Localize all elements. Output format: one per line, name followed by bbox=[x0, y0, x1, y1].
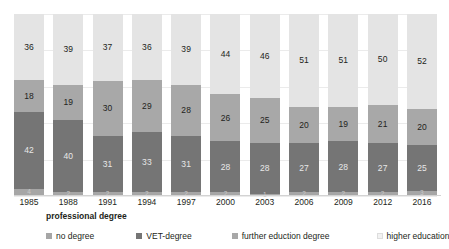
bar-segment-value: 19 bbox=[339, 120, 349, 129]
bar-column[interactable]: 4625281 bbox=[250, 14, 280, 196]
x-axis-tick-label: 1994 bbox=[132, 197, 162, 213]
bar-segment[interactable]: 25 bbox=[250, 98, 280, 144]
x-axis-tick-label: 2006 bbox=[289, 197, 319, 213]
bar-segment[interactable]: 31 bbox=[93, 136, 123, 192]
bar-column[interactable]: 3928312 bbox=[171, 14, 201, 196]
bar-column[interactable]: 3618424 bbox=[14, 14, 44, 196]
bar-column[interactable]: 5021272 bbox=[368, 14, 398, 196]
legend-label: no degree bbox=[56, 231, 94, 241]
bar-segment[interactable]: 25 bbox=[407, 145, 437, 191]
plot-area: 3618424391940237303123629332392831244262… bbox=[14, 14, 437, 196]
bar-segment[interactable]: 19 bbox=[53, 85, 83, 120]
bar-segment-value: 20 bbox=[299, 121, 309, 130]
x-axis-line bbox=[14, 195, 441, 196]
bar-segment[interactable]: 28 bbox=[210, 141, 240, 192]
x-axis-title: professional degree bbox=[46, 211, 127, 221]
bar-column[interactable]: 3919402 bbox=[53, 14, 83, 196]
chart-legend: no degreeVET-degreefurther eduction degr… bbox=[14, 229, 437, 243]
bar-segment[interactable]: 52 bbox=[407, 14, 437, 109]
bar-segment-value: 21 bbox=[378, 120, 388, 129]
bar-segment-value: 37 bbox=[103, 43, 113, 52]
legend-item[interactable]: no degree bbox=[46, 231, 94, 241]
bar-segment[interactable]: 18 bbox=[14, 80, 44, 113]
bar-segment[interactable]: 39 bbox=[171, 14, 201, 85]
x-axis-tick-label: 1997 bbox=[171, 197, 201, 213]
bar-segment[interactable]: 51 bbox=[289, 14, 319, 107]
bar-segment[interactable]: 20 bbox=[407, 109, 437, 145]
x-axis-tick-label: 2000 bbox=[210, 197, 240, 213]
legend-item[interactable]: VET-degree bbox=[136, 231, 191, 241]
bar-segment[interactable]: 21 bbox=[368, 105, 398, 143]
legend-item[interactable]: further eduction degree bbox=[232, 231, 330, 241]
x-axis-tick-label: 2009 bbox=[328, 197, 358, 213]
bar-segment-value: 28 bbox=[260, 164, 270, 173]
bar-segment[interactable]: 36 bbox=[132, 14, 162, 80]
legend-swatch-icon bbox=[46, 233, 52, 239]
legend-label: higher education bbox=[387, 231, 449, 241]
x-axis-tick-label: 2012 bbox=[368, 197, 398, 213]
bar-segment[interactable]: 39 bbox=[53, 14, 83, 85]
bar-segment-value: 36 bbox=[142, 43, 152, 52]
bar-segment-value: 28 bbox=[221, 163, 231, 172]
bar-segment-value: 29 bbox=[142, 102, 152, 111]
bar-segment-value: 46 bbox=[260, 52, 270, 61]
bar-segment-value: 39 bbox=[63, 45, 73, 54]
bar-segment[interactable]: 42 bbox=[14, 112, 44, 188]
x-axis-tick-label: 2003 bbox=[250, 197, 280, 213]
bar-segment-value: 27 bbox=[299, 164, 309, 173]
legend-label: VET-degree bbox=[146, 231, 191, 241]
bar-column[interactable]: 5220253 bbox=[407, 14, 437, 196]
bar-segment-value: 19 bbox=[63, 98, 73, 107]
legend-swatch-icon bbox=[232, 233, 238, 239]
bar-segment[interactable]: 44 bbox=[210, 14, 240, 94]
bar-segment[interactable]: 30 bbox=[93, 81, 123, 136]
bar-segment[interactable]: 40 bbox=[53, 120, 83, 193]
bar-segment[interactable]: 20 bbox=[289, 107, 319, 143]
bar-segment-value: 39 bbox=[181, 45, 191, 54]
bar-segment[interactable]: 27 bbox=[289, 143, 319, 192]
bar-segment[interactable]: 29 bbox=[132, 80, 162, 133]
bar-segment-value: 25 bbox=[417, 164, 427, 173]
bar-segment[interactable]: 28 bbox=[328, 141, 358, 192]
bar-segment-value: 42 bbox=[24, 146, 34, 155]
bar-segment-value: 28 bbox=[181, 106, 191, 115]
bar-segment[interactable]: 50 bbox=[368, 14, 398, 105]
bar-segment[interactable]: 27 bbox=[368, 143, 398, 192]
bar-segment-value: 51 bbox=[299, 56, 309, 65]
bar-segment[interactable]: 31 bbox=[171, 136, 201, 192]
bar-column[interactable]: 5119282 bbox=[328, 14, 358, 196]
bar-segment-value: 28 bbox=[339, 163, 349, 172]
bar-segment[interactable]: 33 bbox=[132, 132, 162, 192]
bar-segment-value: 27 bbox=[378, 164, 388, 173]
bar-segment[interactable]: 28 bbox=[171, 85, 201, 136]
bar-segment[interactable]: 37 bbox=[93, 14, 123, 81]
bar-segment[interactable]: 26 bbox=[210, 94, 240, 141]
bar-segment-value: 25 bbox=[260, 116, 270, 125]
legend-swatch-icon bbox=[377, 233, 383, 239]
x-axis-tick-label: 2016 bbox=[407, 197, 437, 213]
bar-segment-value: 51 bbox=[339, 56, 349, 65]
bar-segment[interactable]: 28 bbox=[250, 143, 280, 194]
bar-segment-value: 31 bbox=[181, 160, 191, 169]
bar-segment-value: 36 bbox=[24, 43, 34, 52]
legend-label: further eduction degree bbox=[242, 231, 330, 241]
bar-column[interactable]: 5120272 bbox=[289, 14, 319, 196]
x-axis-tick-label: 1985 bbox=[14, 197, 44, 213]
bar-segment[interactable]: 19 bbox=[328, 107, 358, 142]
bar-column[interactable]: 3730312 bbox=[93, 14, 123, 196]
bar-segment-value: 44 bbox=[221, 50, 231, 59]
bar-segment[interactable]: 36 bbox=[14, 14, 44, 80]
bar-segment-value: 33 bbox=[142, 158, 152, 167]
bar-segment-value: 18 bbox=[24, 92, 34, 101]
legend-item[interactable]: higher education bbox=[377, 231, 449, 241]
bar-segment-value: 31 bbox=[103, 160, 113, 169]
bar-column[interactable]: 3629332 bbox=[132, 14, 162, 196]
bar-segment[interactable]: 46 bbox=[250, 14, 280, 98]
bar-column[interactable]: 4426282 bbox=[210, 14, 240, 196]
bar-segment[interactable]: 51 bbox=[328, 14, 358, 107]
legend-swatch-icon bbox=[136, 233, 142, 239]
bar-segment-value: 26 bbox=[221, 114, 231, 123]
bar-segment-value: 52 bbox=[417, 57, 427, 66]
bar-segment-value: 50 bbox=[378, 55, 388, 64]
